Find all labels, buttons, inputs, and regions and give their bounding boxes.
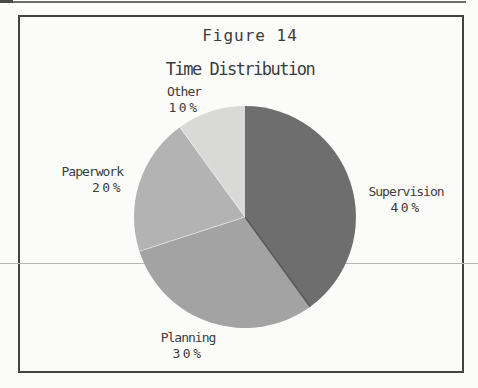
pie-chart	[134, 106, 356, 328]
slice-label-supervision-name: Supervision	[366, 184, 446, 200]
figure-caption: Figure 14	[140, 27, 360, 45]
slice-label-supervision-pct: 40%	[366, 200, 446, 216]
page-top-rule-accent	[0, 0, 13, 3]
slice-label-planning-pct: 30%	[158, 346, 218, 362]
slice-label-other: Other 10%	[152, 84, 216, 116]
slice-label-other-pct: 10%	[152, 100, 216, 116]
slice-label-other-name: Other	[152, 84, 216, 100]
slice-label-supervision: Supervision 40%	[366, 184, 446, 216]
scanned-page: Figure 14 Time Distribution Other 10% Pa…	[0, 0, 478, 388]
slice-label-planning: Planning 30%	[158, 330, 218, 362]
slice-label-paperwork-pct: 20%	[43, 180, 123, 196]
slice-label-paperwork: Paperwork 20%	[43, 164, 123, 196]
slice-label-planning-name: Planning	[158, 330, 218, 346]
slice-label-paperwork-name: Paperwork	[43, 164, 123, 180]
chart-title: Time Distribution	[100, 59, 380, 79]
page-top-rule	[13, 1, 466, 3]
